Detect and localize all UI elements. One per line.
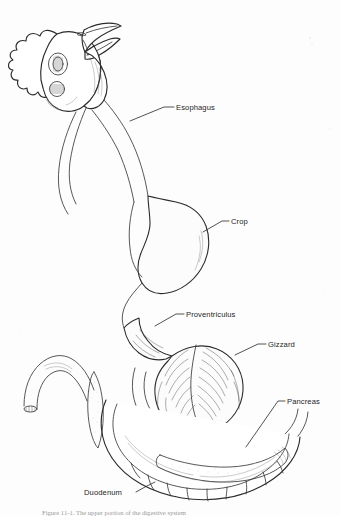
intestine-upper-wall bbox=[24, 356, 94, 406]
label-esophagus: Esophagus bbox=[176, 103, 215, 112]
intestine-cut-hatching bbox=[26, 407, 35, 412]
figure-caption: Figure 11-1. The upper portion of the di… bbox=[42, 509, 187, 516]
intestine-lower-wall bbox=[37, 371, 87, 408]
leader-proventriculus bbox=[155, 314, 184, 326]
label-proventriculus: Proventriculus bbox=[186, 310, 236, 319]
label-pancreas: Pancreas bbox=[287, 397, 320, 406]
head-group bbox=[9, 23, 122, 111]
label-gizzard: Gizzard bbox=[268, 340, 295, 349]
anatomy-figure: Esophagus Crop Proventriculus Gizzard Pa… bbox=[0, 0, 341, 516]
intestine-cut-end-group bbox=[24, 356, 94, 412]
pancreas-lobe-shape bbox=[88, 372, 104, 448]
esophagus-group bbox=[58, 100, 148, 214]
label-crop: Crop bbox=[231, 217, 248, 226]
crop-group bbox=[122, 196, 208, 328]
anatomy-illustration: Esophagus Crop Proventriculus Gizzard Pa… bbox=[0, 0, 341, 516]
proventriculus-group bbox=[124, 318, 172, 360]
esophagus-wall-inner bbox=[92, 110, 134, 202]
crop-shape bbox=[138, 196, 209, 294]
caption-group: Figure 11-1. The upper portion of the di… bbox=[42, 509, 187, 516]
pancreas-lobe-left bbox=[88, 372, 104, 448]
esophagus-fold bbox=[69, 108, 86, 204]
esophagus-wall-outer bbox=[104, 100, 148, 196]
leader-esophagus bbox=[130, 107, 174, 121]
leader-gizzard bbox=[235, 344, 266, 355]
pancreas-lobe-stipple bbox=[92, 381, 99, 441]
label-duodenum: Duodenum bbox=[84, 488, 122, 497]
